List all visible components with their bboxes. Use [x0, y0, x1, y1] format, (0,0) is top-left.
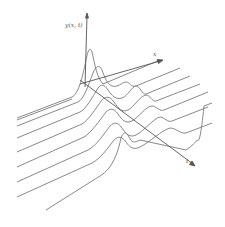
y-axis-label: y(x, t): [65, 22, 83, 28]
curve-5: [17, 92, 208, 167]
curve-4: [17, 84, 200, 152]
x-axis-arrowhead-icon: [157, 60, 163, 64]
curve-3: [17, 76, 190, 138]
t-axis-label: t: [186, 158, 188, 164]
curve-2: [17, 66, 180, 126]
x-axis-label: x: [153, 51, 156, 57]
curve-6: [17, 107, 208, 182]
t-axis: [80, 80, 193, 164]
curve-1: [17, 49, 160, 118]
y-axis-arrowhead-icon: [86, 13, 89, 18]
y-axis: [85, 15, 87, 87]
curve-1b: [17, 99, 72, 120]
x-axis: [80, 61, 160, 84]
curves: [17, 49, 212, 210]
curve-7: [17, 123, 212, 197]
waterfall-diagram: [0, 0, 225, 227]
